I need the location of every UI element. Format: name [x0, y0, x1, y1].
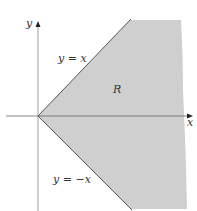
region-label: R — [112, 83, 121, 96]
line-label-y-equals-neg-x: y = −x — [52, 173, 92, 186]
line-label-y-equals-x: y = x — [57, 52, 87, 65]
x-axis-label: x — [187, 116, 194, 129]
region-diagram: y x y = x y = −x R — [0, 0, 197, 211]
y-axis-arrow-icon — [36, 21, 41, 27]
y-axis-label: y — [25, 17, 33, 30]
